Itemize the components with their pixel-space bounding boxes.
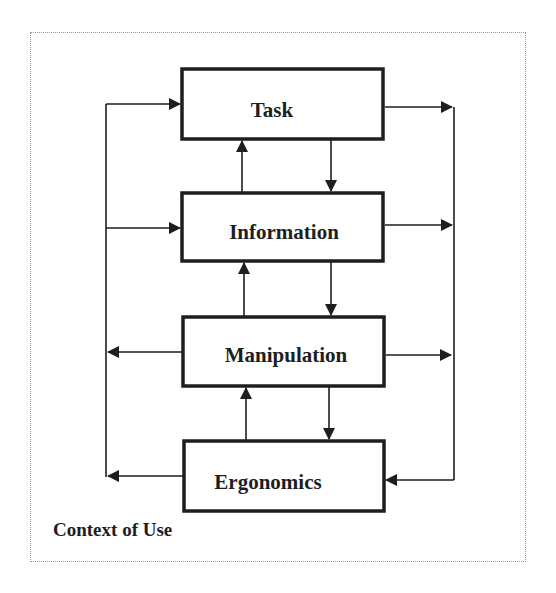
ergonomics-label: Ergonomics: [214, 470, 321, 494]
information-box: Information: [182, 193, 383, 261]
manipulation-box: Manipulation: [183, 317, 384, 386]
information-label: Information: [229, 220, 339, 244]
diagram-canvas: Task Information Manipulation Ergonomics: [0, 0, 556, 593]
manipulation-label: Manipulation: [225, 343, 348, 367]
task-box: Task: [182, 69, 383, 139]
ergonomics-box: Ergonomics: [184, 441, 384, 511]
context-of-use-label: Context of Use: [53, 519, 172, 541]
task-label: Task: [251, 98, 294, 122]
